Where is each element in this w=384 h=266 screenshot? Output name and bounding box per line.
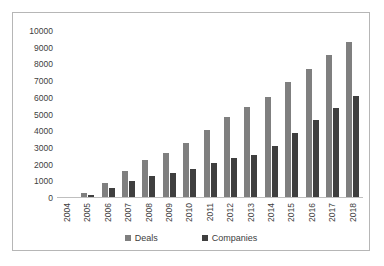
bar-group	[343, 31, 363, 198]
legend-swatch-companies-icon	[202, 235, 208, 241]
bar-group	[281, 31, 301, 198]
bar-deals[interactable]	[122, 171, 128, 198]
x-axis-line	[57, 197, 363, 198]
bar-companies[interactable]	[272, 146, 278, 198]
y-tick-label: 6000	[34, 94, 53, 102]
y-tick-label: 1000	[34, 177, 53, 185]
bar-companies[interactable]	[211, 163, 217, 198]
y-tick-label: 3000	[34, 144, 53, 152]
bar-group	[261, 31, 281, 198]
plot-wrapper: 0100020003000400050006000700080009000100…	[13, 13, 369, 250]
y-tick-label: 8000	[34, 60, 53, 68]
y-tick-label: 7000	[34, 77, 53, 85]
bar-deals[interactable]	[142, 160, 148, 198]
bar-companies[interactable]	[251, 155, 257, 198]
bar-group	[98, 31, 118, 198]
bar-group	[159, 31, 179, 198]
plot-area	[57, 31, 363, 198]
bar-group	[77, 31, 97, 198]
legend-label-companies: Companies	[212, 234, 258, 243]
y-tick-label: 2000	[34, 161, 53, 169]
bar-companies[interactable]	[190, 169, 196, 198]
bar-group	[220, 31, 240, 198]
bar-deals[interactable]	[346, 42, 352, 198]
bar-deals[interactable]	[102, 183, 108, 198]
bar-group	[302, 31, 322, 198]
bar-groups	[57, 31, 363, 198]
bar-deals[interactable]	[326, 55, 332, 198]
bar-group	[57, 31, 77, 198]
bar-deals[interactable]	[183, 143, 189, 198]
y-tick-label: 9000	[34, 44, 53, 52]
bar-companies[interactable]	[353, 96, 359, 198]
bar-deals[interactable]	[306, 69, 312, 198]
bar-deals[interactable]	[204, 130, 210, 198]
legend-label-deals: Deals	[135, 234, 158, 243]
bar-group	[322, 31, 342, 198]
bar-deals[interactable]	[285, 82, 291, 198]
y-tick-label: 5000	[34, 111, 53, 119]
bar-companies[interactable]	[292, 133, 298, 198]
bar-companies[interactable]	[333, 108, 339, 198]
bar-deals[interactable]	[224, 117, 230, 198]
bar-companies[interactable]	[313, 120, 319, 198]
y-tick-label: 10000	[29, 27, 53, 35]
bar-group	[118, 31, 138, 198]
bar-companies[interactable]	[149, 176, 155, 198]
bar-deals[interactable]	[163, 153, 169, 198]
bar-deals[interactable]	[265, 97, 271, 198]
bar-group	[179, 31, 199, 198]
legend-item-companies: Companies	[202, 234, 258, 243]
legend-swatch-deals-icon	[125, 235, 131, 241]
bar-group	[241, 31, 261, 198]
bar-group	[200, 31, 220, 198]
bar-deals[interactable]	[244, 107, 250, 198]
bar-companies[interactable]	[231, 158, 237, 198]
y-tick-label: 4000	[34, 127, 53, 135]
y-tick-label: 0	[48, 194, 53, 202]
chart-container: 0100020003000400050006000700080009000100…	[12, 12, 370, 251]
legend-item-deals: Deals	[125, 234, 158, 243]
bar-companies[interactable]	[170, 173, 176, 198]
y-axis-labels: 0100020003000400050006000700080009000100…	[17, 31, 53, 198]
chart-legend: Deals Companies	[13, 230, 369, 246]
bar-group	[139, 31, 159, 198]
bar-companies[interactable]	[129, 181, 135, 198]
